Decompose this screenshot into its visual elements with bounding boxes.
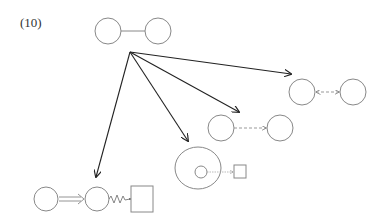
inner-circle [195, 166, 207, 178]
double-arrow [59, 194, 84, 204]
arrow-to-right-pair [130, 52, 291, 74]
top-right-circle [145, 18, 171, 44]
middle-pair [208, 115, 293, 141]
bottom-square [131, 186, 153, 212]
middle-pair-right-circle [267, 115, 293, 141]
diagram-canvas: (10) [0, 0, 383, 224]
right-pair-left-circle [289, 79, 315, 105]
top-pair [95, 18, 171, 44]
wavy-line [109, 195, 130, 203]
right-pair-right-circle [340, 79, 366, 105]
arrow-to-nested-group [130, 52, 188, 141]
arrow-to-middle-pair [130, 52, 239, 112]
nested-group [175, 147, 246, 189]
small-square [234, 165, 246, 178]
bottom-circle-b [85, 187, 109, 211]
middle-pair-left-circle [208, 115, 234, 141]
bottom-circle-a [34, 187, 58, 211]
arrow-to-bottom-chain [96, 52, 130, 177]
fan-arrows [96, 52, 291, 177]
bottom-chain [34, 186, 153, 212]
diagram-svg [0, 0, 383, 224]
top-left-circle [95, 18, 121, 44]
right-pair [289, 79, 366, 105]
outer-circle [175, 147, 221, 189]
